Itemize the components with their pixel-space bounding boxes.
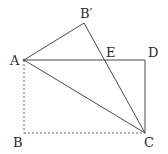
label-b: B — [13, 135, 23, 150]
point-a-marker — [23, 59, 25, 61]
folded-rectangle-diagram: A B′ E D B C — [0, 0, 168, 154]
label-b-prime: B′ — [80, 6, 93, 21]
label-d: D — [148, 45, 158, 60]
segment-ab-prime — [24, 23, 84, 60]
label-e: E — [106, 45, 116, 60]
label-a: A — [9, 53, 20, 68]
segment-ac — [24, 60, 145, 133]
segment-b-prime-c — [84, 23, 145, 133]
label-c: C — [144, 135, 154, 150]
